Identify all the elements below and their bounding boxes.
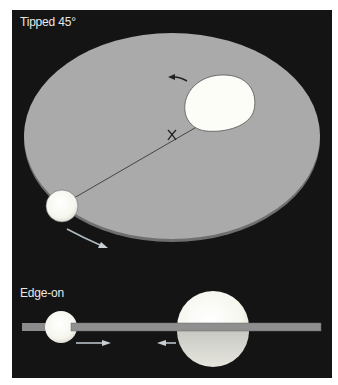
tipped-label: Tipped 45°	[20, 15, 76, 29]
edge-on-label: Edge-on	[20, 286, 64, 300]
small-body-tipped	[46, 190, 78, 222]
plane-bar-main	[71, 323, 321, 331]
orbit-arrow-small-icon	[67, 229, 100, 245]
arrow-head-icon	[98, 242, 108, 248]
orbit-diagram: Tipped 45° Edge-on	[0, 0, 338, 385]
arrow-head-icon	[157, 340, 166, 346]
diagram-art	[0, 0, 338, 385]
arrow-head-icon	[102, 340, 111, 346]
